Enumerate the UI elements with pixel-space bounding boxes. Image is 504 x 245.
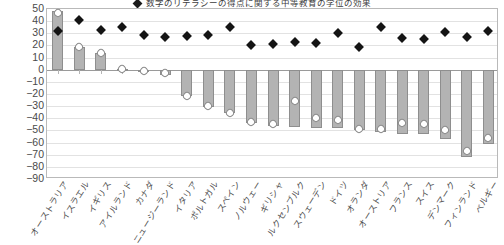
x-axis-tick <box>79 70 80 74</box>
x-axis-tick-label: ニュージーランド <box>131 179 178 245</box>
y-axis-tick-label: 30 <box>2 27 44 38</box>
x-axis: オーストラリアイスラエルイギリスアイルランドカナダニュージーランドイタリアポルト… <box>46 179 498 235</box>
y-axis-tick-label: −80 <box>2 160 44 171</box>
bar <box>354 70 365 131</box>
black-diamond-marker <box>74 15 84 25</box>
x-axis-tick <box>58 70 59 74</box>
plot-area <box>46 8 498 178</box>
y-axis-tick-label: −20 <box>2 88 44 99</box>
black-diamond-marker <box>311 38 321 48</box>
gridline <box>47 130 497 131</box>
y-axis-tick-label: −50 <box>2 124 44 135</box>
y-axis-tick-label: −60 <box>2 136 44 147</box>
black-diamond-marker <box>483 26 493 36</box>
bar <box>375 70 386 132</box>
black-diamond-marker <box>419 34 429 44</box>
bar <box>268 70 279 126</box>
black-diamond-marker <box>268 39 278 49</box>
gridline <box>47 155 497 156</box>
black-diamond-marker <box>397 33 407 43</box>
y-axis-tick-label: 50 <box>2 3 44 14</box>
legend-label: 数字のリテラシーの得点に関する中等教育の学位の効果 <box>146 0 371 8</box>
black-diamond-marker <box>225 22 235 32</box>
y-axis-tick-label: 20 <box>2 39 44 50</box>
black-diamond-marker <box>139 30 149 40</box>
y-axis-tick-label: −70 <box>2 148 44 159</box>
bar <box>461 70 472 157</box>
bar <box>246 70 257 123</box>
black-diamond-marker <box>117 22 127 32</box>
gridline <box>47 143 497 144</box>
black-diamond-marker <box>247 40 257 50</box>
hollow-diamond-marker <box>138 65 149 76</box>
y-axis-tick-label: 10 <box>2 51 44 62</box>
hollow-diamond-marker <box>117 63 128 74</box>
bar <box>224 70 235 114</box>
bar <box>52 11 63 69</box>
black-diamond-marker <box>333 28 343 38</box>
y-axis-tick-label: −40 <box>2 112 44 123</box>
black-diamond-marker <box>182 31 192 41</box>
y-axis: 50403020100−10−20−30−40−50−60−70−80−90 <box>0 8 44 178</box>
gridline <box>47 58 497 59</box>
gridline <box>47 21 497 22</box>
x-axis-tick <box>101 70 102 74</box>
y-axis-tick-label: 0 <box>2 63 44 74</box>
y-axis-tick-label: 40 <box>2 15 44 26</box>
y-axis-tick-label: −10 <box>2 75 44 86</box>
black-diamond-marker <box>440 27 450 37</box>
y-axis-tick-label: −90 <box>2 173 44 184</box>
y-axis-tick-label: −30 <box>2 100 44 111</box>
gridline <box>47 167 497 168</box>
black-diamond-marker <box>354 42 364 52</box>
gridline <box>47 33 497 34</box>
black-diamond-marker-icon <box>132 0 142 8</box>
black-diamond-marker <box>203 30 213 40</box>
black-diamond-marker <box>376 22 386 32</box>
